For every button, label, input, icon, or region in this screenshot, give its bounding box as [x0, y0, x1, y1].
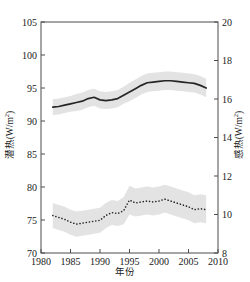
y-right-tick-label: 8 [222, 248, 227, 259]
y-right-tick-label: 18 [222, 55, 232, 66]
y-left-tick-label: 85 [27, 149, 37, 160]
y-axis-right-title-superscript: 2 [232, 114, 239, 117]
y-left-tick-label: 90 [27, 116, 37, 127]
y-left-tick-label: 105 [22, 17, 37, 28]
chart-plot: 1980198519901995200020052010707580859095… [0, 0, 250, 282]
y-left-tick-label: 80 [27, 182, 37, 193]
y-axis-left-title-superscript: 2 [3, 114, 10, 117]
y-axis-right-title-text: 感热(W/m [234, 117, 244, 159]
y-axis-left-title-text: 潜热(W/m [5, 117, 15, 159]
uncertainty-band-1 [53, 72, 206, 116]
y-right-tick-label: 10 [222, 209, 232, 220]
x-axis-title: 年份 [0, 264, 250, 278]
y-axis-right-title-close: ) [234, 111, 244, 114]
axis-tick-labels: 1980198519901995200020052010707580859095… [22, 17, 232, 268]
chart-container: 1980198519901995200020052010707580859095… [0, 0, 250, 282]
y-right-tick-label: 20 [222, 17, 232, 28]
uncertainty-band-2 [53, 185, 206, 237]
uncertainty-band-layer [53, 72, 206, 237]
y-left-tick-label: 100 [22, 50, 37, 61]
y-axis-right-title: 感热(W/m2) [231, 95, 245, 175]
y-axis-left-title-close: ) [5, 111, 15, 114]
y-left-tick-label: 95 [27, 83, 37, 94]
y-left-tick-label: 75 [27, 215, 37, 226]
y-left-tick-label: 70 [27, 248, 37, 259]
y-axis-left-title: 潜热(W/m2) [2, 95, 16, 175]
